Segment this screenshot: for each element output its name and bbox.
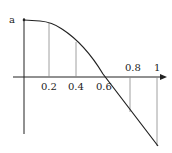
y-label: a (9, 15, 15, 25)
x-tick-1: 1 (154, 63, 160, 73)
function-graph (0, 0, 172, 153)
x-tick-0.6: 0.6 (96, 82, 112, 92)
curve-start-point (23, 19, 26, 22)
x-tick-0.2: 0.2 (41, 82, 57, 92)
x-tick-0.8: 0.8 (125, 63, 141, 73)
x-tick-0.4: 0.4 (68, 82, 84, 92)
x-axis-arrow-icon (160, 74, 167, 80)
